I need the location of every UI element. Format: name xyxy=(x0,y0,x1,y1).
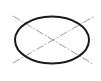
ellipse-diagram xyxy=(0,0,101,81)
